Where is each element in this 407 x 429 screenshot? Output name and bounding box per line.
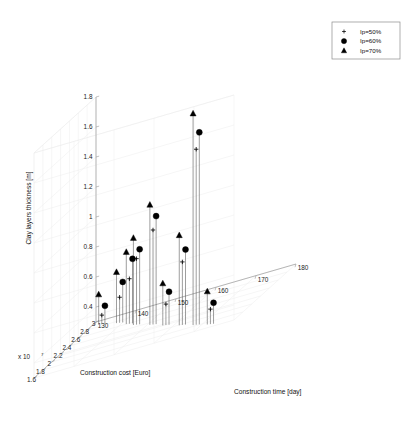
ytick-label: 2.6 (71, 336, 80, 343)
legend-box[interactable]: Ip=50%Ip=60%Ip=70% (332, 22, 400, 59)
axis-tick-z (96, 126, 99, 127)
data-point-triangle (190, 110, 196, 116)
grid-line-xwall (34, 155, 234, 213)
axis-tick-z (96, 276, 99, 277)
xtick-label: 150 (178, 299, 189, 306)
axis-labels-layer: 0.40.60.811.21.41.61.81.61.822.22.42.62.… (18, 93, 309, 396)
legend-label-triangle: Ip=70% (360, 47, 382, 54)
grid-line-xwall (34, 95, 234, 153)
grid-line-xwall (34, 125, 234, 183)
data-point-circle (153, 213, 159, 219)
axis-tick-z (96, 216, 99, 217)
grid-line-xwall (34, 185, 234, 243)
data-point-circle (183, 247, 189, 253)
grid-line-floor (234, 264, 296, 320)
data-point-triangle (123, 249, 129, 255)
ztick-label: 1.6 (84, 123, 93, 130)
xtick-label: 170 (258, 276, 269, 283)
xtick-label: 140 (138, 310, 149, 317)
data-point-circle (130, 256, 136, 262)
ztick-label: 1.8 (84, 93, 93, 100)
y-axis-exponent-text: x 10 (18, 353, 31, 360)
xtick-label: 130 (98, 322, 109, 329)
grid-line-floor (78, 280, 278, 338)
data-point-circle (137, 246, 143, 252)
data-point-circle (211, 300, 217, 306)
legend-label-circle: Ip=60% (360, 37, 382, 44)
axis-tick-z (96, 156, 99, 157)
figure-canvas: 0.40.60.811.21.41.61.81.61.822.22.42.62.… (0, 0, 407, 429)
xtick-label: 160 (218, 287, 229, 294)
x-axis-title: Construction time [day] (234, 388, 302, 396)
y-axis-exponent: x 107 (18, 352, 44, 361)
ytick-label: 2.8 (80, 328, 89, 335)
data-point-triangle (147, 202, 153, 208)
data-point-circle (102, 303, 108, 309)
data-point-triangle (130, 235, 136, 241)
data-point-triangle (113, 269, 119, 275)
ytick-label: 2.2 (54, 352, 63, 359)
data-point-circle (120, 279, 126, 285)
data-point-triangle (160, 280, 166, 286)
data-point-triangle (176, 232, 182, 238)
data-point-triangle (96, 291, 102, 297)
ytick-label: 2.4 (62, 344, 71, 351)
ytick-label: 1.8 (36, 368, 45, 375)
y-axis-exponent-value: 7 (41, 352, 44, 357)
legend-marker-circle (341, 38, 346, 43)
ztick-label: 1.2 (84, 183, 93, 190)
axis-tick-z (96, 246, 99, 247)
legend-label-plus: Ip=50% (360, 28, 382, 35)
xtick-label: 180 (298, 264, 309, 271)
axis-tick-z (96, 96, 99, 97)
grid-line-xwall (34, 305, 234, 363)
ytick-label: 2 (47, 360, 51, 367)
ztick-label: 1.4 (84, 153, 93, 160)
data-point-circle (196, 129, 202, 135)
ytick-label: 3 (92, 320, 96, 327)
grid-line-xwall (34, 215, 234, 273)
z-axis-title: Clay layers thickness [m] (25, 171, 33, 244)
grid-line-ywall (34, 187, 96, 243)
grid-line-xwall (34, 275, 234, 333)
ztick-label: 0.4 (84, 303, 93, 310)
axis-tick-z (96, 186, 99, 187)
grid-line-xwall (34, 245, 234, 303)
stems-layer (99, 114, 214, 326)
ztick-label: 1 (89, 213, 93, 220)
ztick-label: 0.8 (84, 243, 93, 250)
ztick-label: 0.6 (84, 273, 93, 280)
ytick-label: 1.6 (27, 376, 36, 383)
data-point-circle (166, 289, 172, 295)
plot-svg: 0.40.60.811.21.41.61.81.61.822.22.42.62.… (0, 0, 407, 429)
y-axis-title: Construction cost [Euro] (80, 369, 151, 377)
